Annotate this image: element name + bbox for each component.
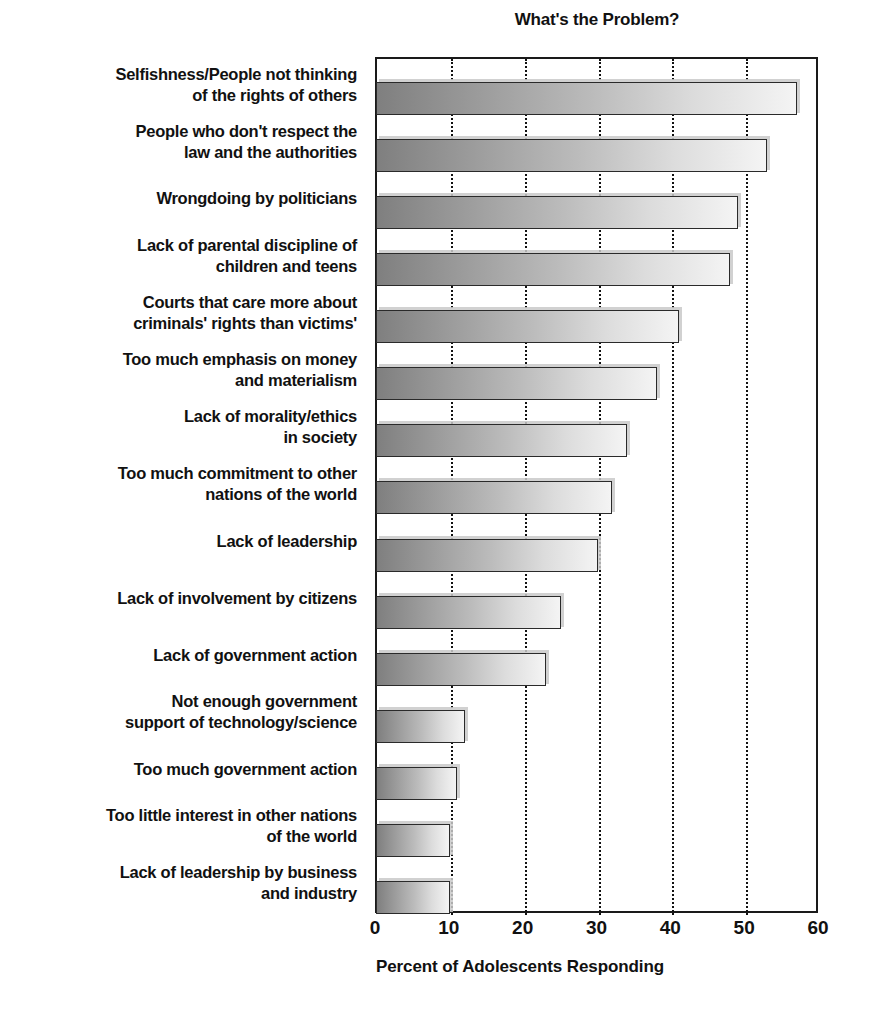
bar-row	[375, 285, 818, 342]
bar[interactable]	[376, 367, 657, 400]
category-label: Lack of leadership by business and indus…	[0, 862, 357, 904]
bar-row	[375, 171, 818, 228]
bar-row	[375, 799, 818, 856]
bar-row	[375, 571, 818, 628]
bar[interactable]	[376, 139, 767, 172]
bar[interactable]	[376, 481, 612, 514]
category-label: Lack of government action	[0, 645, 357, 666]
bar-row	[375, 228, 818, 285]
bar-row	[375, 114, 818, 171]
chart-page: What's the Problem? Selfishness/People n…	[0, 0, 877, 1020]
bar[interactable]	[376, 424, 627, 457]
bar[interactable]	[376, 596, 561, 629]
bar-row	[375, 57, 818, 114]
bar[interactable]	[376, 824, 450, 857]
category-label: Lack of parental discipline of children …	[0, 235, 357, 277]
category-label: Lack of involvement by citizens	[0, 588, 357, 609]
bar[interactable]	[376, 653, 546, 686]
x-tick-label-10: 10	[419, 917, 479, 939]
x-tick-label-0: 0	[345, 917, 405, 939]
bar-row	[375, 514, 818, 571]
x-axis-tick-labels: 0102030405060	[375, 917, 818, 947]
bar[interactable]	[376, 881, 450, 914]
bar-row	[375, 399, 818, 456]
bar[interactable]	[376, 710, 465, 743]
bar[interactable]	[376, 196, 738, 229]
chart-title: What's the Problem?	[376, 10, 818, 30]
category-label: Selfishness/People not thinking of the r…	[0, 64, 357, 106]
x-tick-label-40: 40	[640, 917, 700, 939]
x-tick-label-20: 20	[493, 917, 553, 939]
x-tick-label-30: 30	[567, 917, 627, 939]
bar-row	[375, 685, 818, 742]
x-tick-label-60: 60	[788, 917, 848, 939]
category-label: Courts that care more about criminals' r…	[0, 292, 357, 334]
bar[interactable]	[376, 310, 679, 343]
bar[interactable]	[376, 82, 797, 115]
category-label: Not enough government support of technol…	[0, 691, 357, 733]
bar-row	[375, 856, 818, 913]
category-label: Wrongdoing by politicians	[0, 188, 357, 209]
bar-row	[375, 742, 818, 799]
category-label: People who don't respect the law and the…	[0, 121, 357, 163]
category-label: Too little interest in other nations of …	[0, 805, 357, 847]
bars-group	[375, 57, 818, 913]
bar-row	[375, 628, 818, 685]
category-label: Too much emphasis on money and materiali…	[0, 349, 357, 391]
category-label: Lack of morality/ethics in society	[0, 406, 357, 448]
category-labels-group: Selfishness/People not thinking of the r…	[0, 57, 367, 913]
category-label: Lack of leadership	[0, 531, 357, 552]
category-label: Too much commitment to other nations of …	[0, 463, 357, 505]
x-tick-label-50: 50	[714, 917, 774, 939]
bar[interactable]	[376, 253, 730, 286]
x-axis-title: Percent of Adolescents Responding	[220, 957, 820, 977]
bar-row	[375, 456, 818, 513]
bar[interactable]	[376, 539, 598, 572]
bar-row	[375, 342, 818, 399]
category-label: Too much government action	[0, 759, 357, 780]
bar[interactable]	[376, 767, 457, 800]
